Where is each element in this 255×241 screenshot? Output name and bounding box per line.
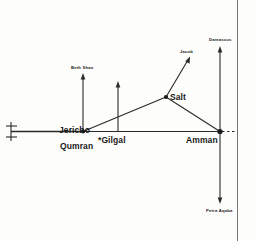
node-label-salt: Salt [170,93,186,102]
node-label-jacob: Jacob [180,50,193,54]
diagram-canvas: Jericho Qumran *Gilgal Salt Amman Beth S… [0,0,255,241]
road-salt-amman [166,97,220,132]
node-amman[interactable] [217,129,222,134]
node-label-damascus: Damascus [209,38,232,42]
node-label-beth-shan: Beth Shan [71,66,94,70]
node-label-gilgal: *Gilgal [98,136,126,145]
arrow-amman-damascus [218,46,223,131]
arrow-jericho-beth-shan [81,73,86,131]
node-salt[interactable] [164,95,168,99]
node-label-jericho: Jericho [59,126,90,135]
arrow-salt-jacob [166,57,190,98]
page-edge [237,0,238,241]
node-label-qumran: Qumran [60,142,93,151]
arrow-gilgal-north [116,81,121,131]
road-jericho-salt [83,97,166,132]
arrow-amman-petra-aqaba [218,132,223,204]
node-label-petra-aqaba: Petra Aqaba [206,209,232,213]
node-label-amman: Amman [186,136,218,145]
